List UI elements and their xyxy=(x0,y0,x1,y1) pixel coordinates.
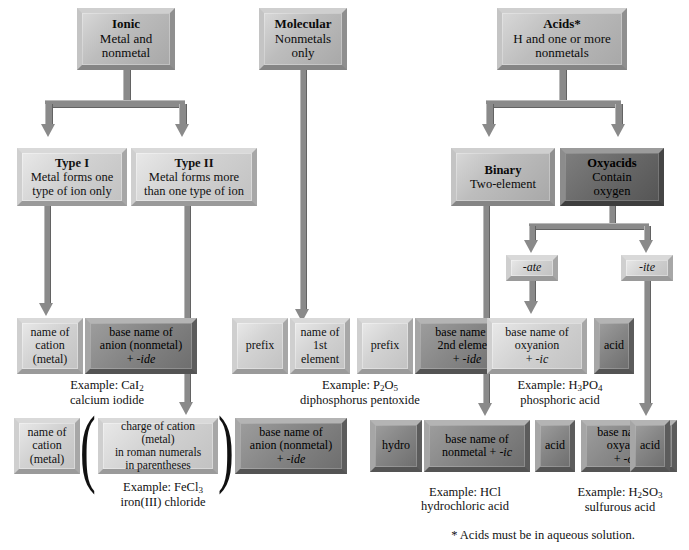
connector-molecular-down xyxy=(300,70,307,312)
type2-charge-line3: in parentheses xyxy=(125,459,190,471)
oxyacid-ate-example: Example: H3PO4 phosphoric acid xyxy=(480,378,640,408)
arrowhead-type2 xyxy=(175,124,189,137)
type2-cation-line2: cation xyxy=(32,438,61,452)
arrowhead-oxyacids xyxy=(611,124,625,137)
oxyacid-ate-acid-label: acid xyxy=(602,339,626,352)
connector-ionic-left xyxy=(45,104,53,126)
node-ionic-line2: nonmetal xyxy=(102,45,150,60)
oxyacid-ite-acid-box: acid xyxy=(630,420,670,472)
type1-cation-line2: cation xyxy=(35,338,64,352)
type1-example: Example: CaI2 calcium iodide xyxy=(17,378,197,408)
oxyacid-ite-line3-plus: + xyxy=(614,452,624,466)
oxyacid-ate-base-box: base name of oxyanion + -ic xyxy=(487,318,587,374)
node-molecular: Molecular Nonmetals only xyxy=(259,8,347,70)
node-ate: -ate xyxy=(506,255,558,281)
type1-cation-line1: name of xyxy=(31,325,70,339)
type2-anion-line2: anion (nonmetal) xyxy=(250,438,332,452)
oxyacid-ate-line3-plus: + xyxy=(526,352,536,366)
type2-cation-box: name of cation (metal) xyxy=(14,418,80,474)
connector-acids-bar xyxy=(486,100,621,108)
node-acids-line2: nonmetals xyxy=(535,45,588,60)
arrowhead-binary xyxy=(482,124,496,137)
type2-example: Example: FeCl3 iron(III) chloride xyxy=(98,480,228,510)
footnote: * Acids must be in aqueous solution. xyxy=(399,528,687,542)
type1-anion-line2: anion (nonmetal) xyxy=(100,338,182,352)
type2-cation-line3: (metal) xyxy=(30,452,65,466)
connector-acids-stem xyxy=(559,70,567,103)
oxyacid-ite-example-sub2: 3 xyxy=(658,490,663,500)
connector-type1-down xyxy=(44,206,51,306)
close-paren: ) xyxy=(218,404,234,490)
molecular-second-suffix: -ide xyxy=(463,352,482,366)
binary-base-box: base name of nonmetal + -ic xyxy=(424,420,530,472)
molecular-example-name: diphosphorus pentoxide xyxy=(300,393,420,407)
type2-example-name: iron(III) chloride xyxy=(120,495,205,509)
binary-example-label: Example: HCl xyxy=(429,485,501,499)
binary-base-line1: base name of xyxy=(445,432,508,446)
type2-anion-box: base name of anion (nonmetal) + -ide xyxy=(235,418,347,474)
oxyacid-ate-example-sub2: 4 xyxy=(598,383,603,393)
type2-example-label: Example: FeCl xyxy=(123,480,198,494)
open-paren: ( xyxy=(80,404,96,490)
oxyacid-ate-example-name: phosphoric acid xyxy=(520,393,600,407)
type2-anion-suffix: -ide xyxy=(287,452,306,466)
oxyacid-ate-example-mid: PO xyxy=(582,378,598,392)
binary-example-name: hydrochloric acid xyxy=(421,499,509,513)
binary-acid-label: acid xyxy=(543,439,567,452)
node-binary-line1: Two-element xyxy=(470,177,536,191)
arrowhead-ite xyxy=(639,240,653,253)
type2-anion-line3-plus: + xyxy=(277,452,287,466)
node-acids-line1: H and one or more xyxy=(513,31,610,46)
node-binary-title: Binary xyxy=(485,163,522,177)
binary-base-line2-plain: nonmetal + xyxy=(442,445,499,459)
flowchart-canvas: Ionic Metal and nonmetal Molecular Nonme… xyxy=(0,0,689,550)
node-type1: Type I Metal forms one type of ion only xyxy=(17,148,127,206)
molecular-first-line2: 1st xyxy=(313,338,327,352)
node-ionic-title: Ionic xyxy=(112,16,140,31)
type1-cation-line3: (metal) xyxy=(33,352,68,366)
molecular-example-mid: O xyxy=(384,378,393,392)
type2-charge-line2: in roman numerals xyxy=(115,446,201,458)
molecular-example-label: Example: P xyxy=(322,378,380,392)
molecular-first-line3: element xyxy=(301,352,339,366)
node-ate-label: -ate xyxy=(521,261,544,274)
node-type2-line1: Metal forms more xyxy=(149,170,239,184)
connector-ite-to-row xyxy=(644,281,651,406)
node-ionic: Ionic Metal and nonmetal xyxy=(77,8,175,70)
type2-cation-line1: name of xyxy=(28,425,67,439)
node-molecular-line1: Nonmetals xyxy=(275,31,331,46)
molecular-prefix1-label: prefix xyxy=(244,339,277,352)
molecular-first-line1: name of xyxy=(301,325,340,339)
molecular-second-line3-plus: + xyxy=(453,352,463,366)
node-molecular-line2: only xyxy=(291,45,314,60)
molecular-example: Example: P2O5 diphosphorus pentoxide xyxy=(245,378,475,408)
oxyacid-ite-example-mid: SO xyxy=(642,485,658,499)
oxyacid-ate-acid-box: acid xyxy=(594,318,634,374)
type1-anion-suffix: -ide xyxy=(137,352,156,366)
oxyacid-ite-example-name: sulfurous acid xyxy=(585,500,655,514)
arrowhead-type1 xyxy=(41,124,55,137)
molecular-first-box: name of 1st element xyxy=(290,318,350,374)
arrowhead-ate xyxy=(524,240,538,253)
type1-anion-line3-plus: + xyxy=(127,352,137,366)
node-type2: Type II Metal forms more than one type o… xyxy=(131,148,257,206)
arrowhead-ite-row xyxy=(639,403,653,416)
node-type2-title: Type II xyxy=(174,156,213,170)
binary-base-suffix: -ic xyxy=(499,445,512,459)
oxyacid-ate-line2: oxyanion xyxy=(515,338,560,352)
connector-ate-to-row xyxy=(529,281,536,303)
node-acids-title: Acids* xyxy=(543,16,581,31)
type1-anion-line1: base name of xyxy=(109,325,172,339)
connector-acids-right xyxy=(615,104,623,126)
type2-anion-line1: base name of xyxy=(259,425,322,439)
node-molecular-title: Molecular xyxy=(274,16,331,31)
node-acids: Acids* H and one or more nonmetals xyxy=(497,8,627,70)
oxyacid-ite-example: Example: H2SO3 sulfurous acid xyxy=(540,485,689,515)
arrowhead-ate-row xyxy=(524,301,538,314)
type1-anion-box: base name of anion (nonmetal) + -ide xyxy=(85,318,197,374)
node-type1-title: Type I xyxy=(55,156,89,170)
binary-acid-box: acid xyxy=(535,420,575,472)
connector-acids-left xyxy=(486,104,494,126)
molecular-prefix2-label: prefix xyxy=(369,339,402,352)
connector-ionic-bar xyxy=(45,100,185,108)
